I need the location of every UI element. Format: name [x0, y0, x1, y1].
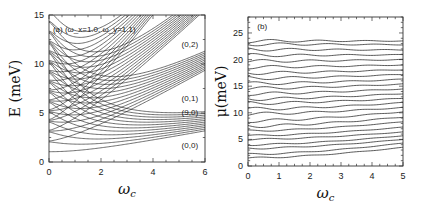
band-label: (9,0)	[182, 108, 199, 117]
x-tick-label: 6	[202, 167, 207, 177]
band-label: (0,2)	[182, 40, 199, 49]
band-label: (0,0)	[182, 141, 199, 150]
x-axis-title: ωc	[118, 180, 136, 199]
x-tick-label: 0	[245, 171, 250, 181]
y-axis-title: μ(meV)	[213, 66, 229, 118]
x-tick-label: 2	[307, 171, 312, 181]
y-tick-label: 15	[233, 81, 243, 91]
x-tick-label: 4	[369, 171, 374, 181]
x-tick-label: 1	[276, 171, 281, 181]
x-axis-title: ωc	[317, 184, 335, 202]
energy-level-curves	[49, 0, 205, 152]
y-tick-label: 0	[238, 161, 243, 171]
chemical-potential-curves	[248, 40, 403, 159]
x-tick-label: 5	[400, 171, 405, 181]
panel-b-chemical-potential: 0123450510152025ωcμ(meV)(b)	[213, 17, 406, 202]
y-tick-label: 10	[233, 108, 243, 118]
x-tick-label: 2	[98, 167, 103, 177]
y-tick-label: 10	[34, 59, 44, 69]
y-tick-label: 5	[39, 108, 44, 118]
figure-canvas: 0246051015ωcE (meV)(a) (ω_x=1.0, ω_y=1.1…	[0, 0, 424, 202]
x-tick-label: 4	[150, 167, 155, 177]
panel-a-annotation: (a) (ω_x=1.0, ω_y=1.1)	[53, 25, 136, 34]
x-tick-label: 0	[46, 167, 51, 177]
y-tick-label: 5	[238, 134, 243, 144]
y-tick-label: 0	[39, 157, 44, 167]
x-tick-label: 3	[338, 171, 343, 181]
y-tick-label: 20	[233, 55, 243, 65]
y-tick-label: 15	[34, 10, 44, 20]
y-axis-title: E (meV)	[7, 60, 23, 117]
panel-b-annotation: (b)	[257, 22, 267, 31]
y-tick-label: 25	[233, 28, 243, 38]
band-label: (0,1)	[182, 94, 199, 103]
panel-a-energy-levels: 0246051015ωcE (meV)(a) (ω_x=1.0, ω_y=1.1…	[7, 0, 208, 199]
